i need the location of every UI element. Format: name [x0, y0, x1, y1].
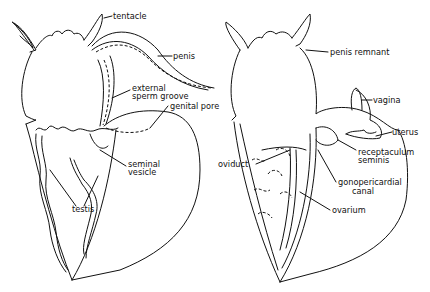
label-penis: penis: [173, 52, 195, 60]
label-seminis: seminis: [358, 156, 389, 164]
anatomy-diagram: tentacle penis external sperm groove gen…: [0, 0, 430, 292]
label-gonopericardial: gonopericardial: [338, 178, 402, 186]
label-sperm-groove: sperm groove: [132, 92, 189, 100]
label-vesicle: vesicle: [128, 168, 156, 176]
label-canal: canal: [352, 187, 374, 195]
label-ovarium: ovarium: [332, 206, 366, 214]
label-oviduct: oviduct: [218, 160, 248, 168]
label-genital-pore: genital pore: [170, 102, 219, 110]
label-uterus: uterus: [392, 128, 418, 136]
label-vagina: vagina: [373, 96, 401, 104]
label-penis-remnant: penis remnant: [330, 48, 389, 56]
label-testis: testis: [72, 205, 94, 213]
label-tentacle: tentacle: [113, 12, 146, 20]
diagram-drawing: [0, 0, 430, 292]
